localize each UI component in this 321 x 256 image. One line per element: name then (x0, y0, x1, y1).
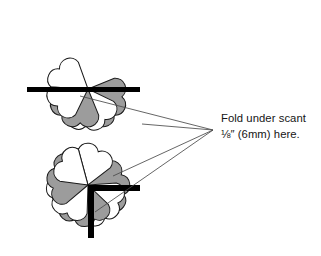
diagram-root: Fold under scant ⅛″ (6mm) here. (0, 0, 321, 256)
figure-top (17, 38, 140, 160)
caption-line-2: ⅛″ (6mm) here. (221, 127, 319, 143)
leader-line-to-bottom-arm (113, 130, 213, 176)
caption-line-1: Fold under scant (221, 111, 319, 127)
caption-line-2-rest: (6mm) here. (235, 128, 300, 140)
fold-mark-bar-top (27, 87, 140, 92)
fold-instruction-caption: Fold under scant ⅛″ (6mm) here. (221, 111, 319, 142)
